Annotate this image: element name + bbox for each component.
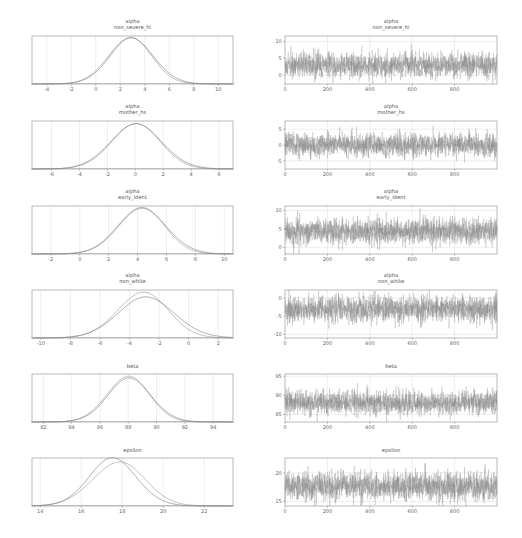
x-tick-label: 22: [201, 508, 207, 514]
kde-panel-2: alphaearly_ident-20246810: [32, 188, 233, 263]
panel-title-line: non_white: [119, 278, 146, 285]
x-tick-label: 200: [323, 340, 333, 346]
kde-panel-1: alphamother_hs-6-4-20246: [32, 103, 233, 178]
trace-panel-1: alphamother_hs0200400600800-505: [277, 103, 497, 178]
kde-panel-0: alphanon_severe_hi-4-20246810: [32, 18, 233, 93]
x-tick-label: 6: [165, 256, 168, 262]
x-tick-label: 400: [365, 340, 375, 346]
kde-panel-4: beta82848688909294: [32, 363, 233, 431]
x-tick-label: 400: [365, 424, 375, 430]
x-tick-label: 8: [192, 86, 195, 92]
kde-curve: [32, 124, 233, 169]
kde-panel-5: epsilon1416182022: [32, 447, 233, 515]
x-tick-label: 84: [68, 424, 74, 430]
kde-curve: [32, 292, 233, 338]
kde-panel-3: alphanon_white-10-8-6-4-202: [32, 272, 233, 347]
panel-title-line: mother_hs: [377, 109, 405, 116]
x-tick-label: -2: [157, 340, 162, 346]
x-tick-label: 2: [162, 171, 165, 177]
axes-frame: [32, 206, 233, 254]
x-tick-label: 10: [221, 256, 227, 262]
x-tick-label: 800: [450, 256, 460, 262]
x-tick-label: 600: [407, 508, 417, 514]
x-tick-label: 600: [407, 424, 417, 430]
axes-frame: [32, 374, 233, 422]
x-tick-label: 0: [283, 256, 286, 262]
panel-title-line: beta: [127, 363, 139, 369]
y-tick-label: 0: [279, 142, 282, 148]
x-tick-label: 600: [407, 340, 417, 346]
x-tick-label: 400: [365, 256, 375, 262]
x-tick-label: 400: [365, 171, 375, 177]
x-tick-label: 2: [119, 86, 122, 92]
x-tick-label: 600: [407, 86, 417, 92]
kde-curve: [32, 207, 233, 254]
y-tick-label: 0: [279, 72, 282, 78]
y-tick-label: -5: [277, 158, 282, 164]
y-tick-label: 85: [275, 411, 281, 417]
y-tick-label: 5: [279, 55, 282, 61]
y-tick-label: 10: [275, 207, 281, 213]
x-tick-label: 0: [134, 171, 137, 177]
x-tick-label: 14: [37, 508, 43, 514]
x-tick-label: -2: [105, 171, 110, 177]
x-tick-label: 86: [97, 424, 103, 430]
x-tick-label: 600: [407, 256, 417, 262]
x-tick-label: 800: [450, 86, 460, 92]
trace-panel-0: alphanon_severe_hi02004006008000510: [275, 18, 497, 93]
trace-panel-5: epsilon02004006008001520: [275, 447, 497, 515]
x-tick-label: 0: [283, 171, 286, 177]
panel-title-line: mother_hs: [119, 109, 147, 116]
axes-frame: [32, 290, 233, 338]
kde-curve: [32, 297, 233, 338]
y-tick-label: 15: [275, 498, 281, 504]
x-tick-label: 92: [182, 424, 188, 430]
x-tick-label: 800: [450, 340, 460, 346]
x-tick-label: 2: [217, 340, 220, 346]
x-tick-label: 10: [215, 86, 221, 92]
kde-curve: [32, 462, 233, 506]
x-tick-label: 200: [323, 508, 333, 514]
x-tick-label: 82: [40, 424, 46, 430]
x-tick-label: 600: [407, 171, 417, 177]
axes-frame: [32, 121, 233, 169]
x-tick-label: 0: [78, 256, 81, 262]
x-tick-label: 8: [194, 256, 197, 262]
x-tick-label: 400: [365, 508, 375, 514]
x-tick-label: -2: [48, 256, 53, 262]
panel-title-line: non_white: [378, 278, 405, 285]
x-tick-label: 0: [283, 424, 286, 430]
x-tick-label: 0: [94, 86, 97, 92]
panel-title-line: early_ident: [118, 194, 147, 201]
x-tick-label: 94: [210, 424, 216, 430]
x-tick-label: -2: [69, 86, 74, 92]
trace-panel-3: alphanon_white0200400600800-10-50: [274, 272, 497, 347]
x-tick-label: 2: [107, 256, 110, 262]
trace-plot-figure: alphanon_severe_hi-4-20246810alphanon_se…: [0, 0, 522, 538]
y-tick-label: 10: [275, 38, 281, 44]
panel-title-line: non_severe_hi: [114, 24, 151, 31]
panel-title-line: epsilon: [123, 447, 142, 454]
trace-panel-2: alphaearly_ident02004006008000510: [275, 188, 497, 263]
axes-frame: [32, 36, 233, 84]
x-tick-label: -10: [37, 340, 45, 346]
x-tick-label: 200: [323, 424, 333, 430]
y-tick-label: 5: [279, 226, 282, 232]
y-tick-label: -5: [277, 313, 282, 319]
x-tick-label: 0: [283, 508, 286, 514]
panel-title-line: epsilon: [382, 447, 401, 454]
x-tick-label: 0: [187, 340, 190, 346]
y-tick-label: 95: [275, 373, 281, 379]
x-tick-label: 6: [217, 171, 220, 177]
x-tick-label: 90: [153, 424, 159, 430]
x-tick-label: -8: [68, 340, 73, 346]
trace-line: [285, 46, 497, 83]
x-tick-label: 800: [450, 508, 460, 514]
x-tick-label: -6: [49, 171, 54, 177]
kde-curve: [32, 378, 233, 422]
x-tick-label: 400: [365, 86, 375, 92]
y-tick-label: 0: [279, 244, 282, 250]
y-tick-label: 5: [279, 126, 282, 132]
kde-curve: [32, 376, 233, 422]
x-tick-label: 4: [190, 171, 193, 177]
